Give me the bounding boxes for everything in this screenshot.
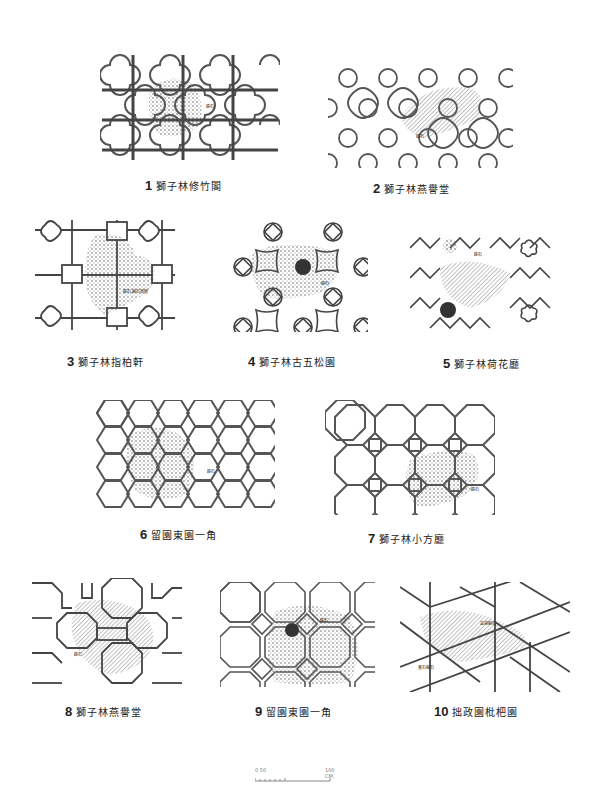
caption-9: 9留園東園一角	[255, 704, 332, 719]
annotation-potted-rock: 盆栽樹石	[480, 620, 496, 626]
annotation-rock: 峰石	[320, 617, 328, 623]
caption-2: 2獅子林燕譽堂	[373, 181, 450, 196]
caption-10: 10拙政園枇杷園	[434, 704, 518, 719]
figure-3-square-quatrefoil-paving: 峰石,樹石草植	[35, 220, 175, 330]
annotation-rock: 峰石	[207, 468, 215, 474]
figure-2-quatrefoil-circle-paving: 峰石	[328, 68, 513, 168]
annotation-rock: 峰石	[74, 651, 82, 657]
figure-4-coin-square-paving: 峰石	[228, 222, 368, 332]
annotation-rock-plants: 峰石,樹石草植	[123, 288, 148, 294]
figure-1-quatrefoil-paving: 峰石	[100, 45, 280, 165]
annotation-rock: 峰石	[321, 280, 329, 286]
caption-8: 8獅子林燕譽堂	[65, 704, 142, 719]
annotation-placed-rock: 置石樹石	[418, 664, 434, 670]
annotation-rock: 峰石	[471, 486, 479, 492]
annotation-rock: 峰石	[206, 103, 214, 109]
figure-9-octagon-diamond-paving: 峰石	[220, 582, 375, 687]
scale-start-label: 0 50	[255, 767, 266, 773]
caption-3: 3獅子林指柏軒	[67, 354, 144, 369]
caption-4: 4獅子林古五松園	[248, 354, 336, 369]
caption-6: 6留園東園一角	[140, 527, 217, 542]
caption-5: 5獅子林荷花廳	[443, 356, 520, 371]
figure-5-fret-flower-paving: 峰石	[410, 228, 560, 333]
figure-7-octagon-square-paving: 峰石	[325, 400, 495, 515]
figure-6-hexagon-paving: 峰石	[95, 400, 275, 510]
caption-1: 1獅子林修竹閣	[145, 178, 222, 193]
caption-7: 7獅子林小方廳	[368, 531, 445, 546]
figure-8-octagon-cross-paving: 峰石	[32, 578, 182, 688]
annotation-rock: 峰石	[416, 133, 424, 139]
annotation-rock: 峰石	[474, 251, 482, 257]
figure-10-triangle-paving: 盆栽樹石 置石樹石	[400, 582, 570, 692]
scale-bar: 0 50 100 CM.	[255, 767, 335, 787]
